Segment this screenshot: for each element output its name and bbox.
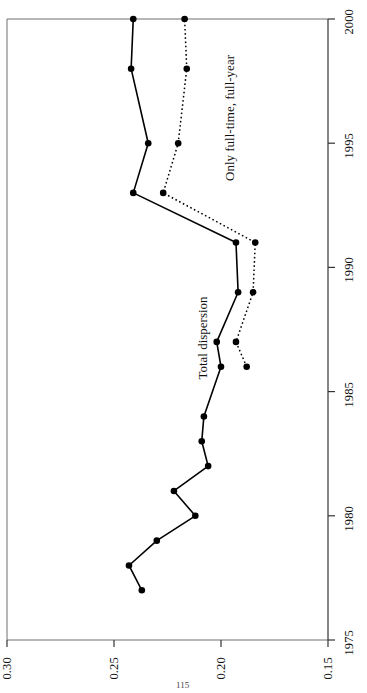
data-point	[218, 363, 225, 370]
data-point	[243, 363, 250, 370]
year-tick-label-1995: 1995	[342, 129, 357, 159]
data-point	[128, 65, 135, 72]
value-tick-label-025: 0.25	[107, 650, 122, 680]
data-point	[205, 463, 212, 470]
data-point	[213, 339, 220, 346]
year-tick-label-1980: 1980	[342, 502, 357, 532]
data-point	[145, 140, 152, 147]
value-tick-label-030: 0.30	[0, 650, 15, 680]
year-tick-label-1990: 1990	[342, 253, 357, 283]
data-point	[198, 438, 205, 445]
data-point	[252, 239, 259, 246]
data-point	[139, 587, 146, 594]
data-point	[235, 289, 242, 296]
data-point	[130, 16, 137, 23]
data-point	[183, 65, 190, 72]
data-point	[175, 140, 182, 147]
value-tick-label-015: 0.15	[321, 650, 336, 680]
data-point	[233, 339, 240, 346]
chart-figure: 2000 1995 1990 1985 1980 1975 0.30 0.25 …	[0, 0, 367, 693]
data-point	[160, 190, 167, 197]
year-tick-label-1985: 1985	[342, 378, 357, 408]
chart-plot-area	[0, 0, 367, 693]
data-point	[250, 289, 257, 296]
series-annotation-total-dispersion: Total dispersion	[195, 268, 211, 408]
series-annotation-full-time-full-year: Only full-time, full-year	[222, 23, 238, 213]
value-tick-label-020: 0.20	[214, 650, 229, 680]
year-tick-label-2000: 2000	[342, 5, 357, 35]
data-point	[192, 513, 199, 520]
data-point	[181, 16, 188, 23]
page-number: 115	[176, 680, 189, 690]
data-point	[171, 488, 178, 495]
data-point	[154, 537, 161, 544]
year-tick-label-1975: 1975	[342, 626, 357, 656]
data-point	[201, 413, 208, 420]
data-point	[130, 190, 137, 197]
data-point	[233, 239, 240, 246]
data-point	[126, 562, 133, 569]
